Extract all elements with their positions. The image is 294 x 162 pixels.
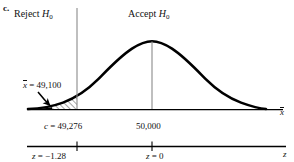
distribution-plot	[0, 0, 294, 162]
sample-mean-pointer-arrow	[38, 92, 50, 106]
normal-curve	[28, 41, 266, 109]
hypothesis-test-diagram: c. Reject H0 Accept H0 x = 49,100 c = 49…	[0, 0, 294, 162]
